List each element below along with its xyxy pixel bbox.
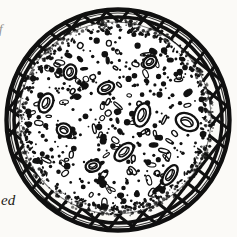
page-text-fragment-top-left: f <box>0 22 3 35</box>
page-text-fragment-left: ed <box>1 193 16 208</box>
illustration-figure: f ed <box>0 0 237 237</box>
baked-good-illustration <box>0 0 237 237</box>
